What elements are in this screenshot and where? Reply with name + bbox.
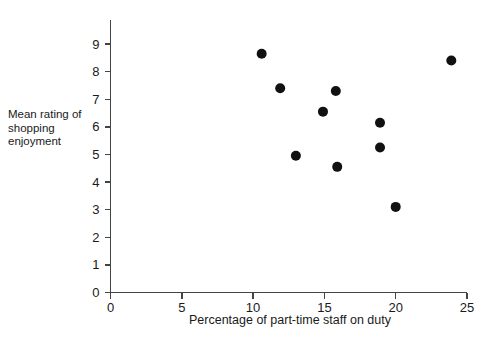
y-tick-group: 0123456789 [92,37,110,301]
y-axis-label-line-1: Mean rating of [8,108,96,122]
data-point [331,86,341,96]
data-point [446,56,456,66]
y-tick-label: 9 [92,37,99,52]
y-tick-label: 7 [92,92,99,107]
plot-canvas: 0123456789 0510152025 [0,0,482,339]
data-point [275,83,285,93]
data-point [318,107,328,117]
data-point [391,202,401,212]
data-points-group [257,49,457,212]
y-tick-label: 1 [92,257,99,272]
scatter-plot-figure: 0123456789 0510152025 Mean rating of sho… [0,0,482,339]
y-tick-label: 8 [92,64,99,79]
data-point [375,118,385,128]
y-axis-label-line-3: enjoyment [8,135,96,149]
y-tick-label: 5 [92,147,99,162]
data-point [257,49,267,59]
y-tick-label: 3 [92,202,99,217]
y-tick-label: 2 [92,230,99,245]
y-tick-label: 4 [92,175,99,190]
data-point [332,162,342,172]
x-tick-group: 0510152025 [107,293,474,315]
y-axis-label-line-2: shopping [8,122,96,136]
x-axis-label: Percentage of part-time staff on duty [110,313,470,327]
data-point [375,143,385,153]
data-point [291,151,301,161]
y-axis-label: Mean rating of shopping enjoyment [8,108,96,149]
y-tick-label: 0 [92,285,99,300]
